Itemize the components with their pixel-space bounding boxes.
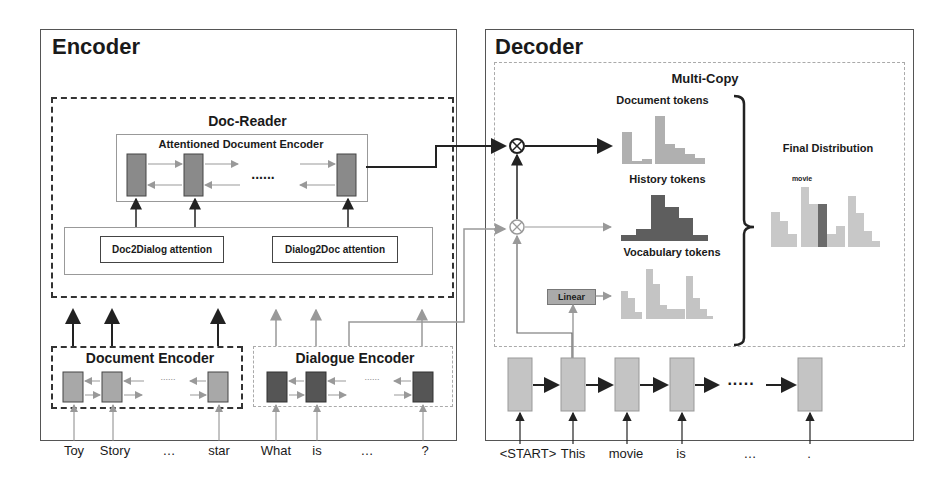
- diagram-graphics: [0, 0, 951, 497]
- histogram-final-distribution: [771, 187, 880, 247]
- histogram-history-tokens: [621, 195, 708, 241]
- multiply-node-history: [510, 220, 524, 234]
- histogram-document-tokens: [622, 116, 705, 164]
- multiply-node-document: [510, 139, 524, 153]
- doc-reader-cells: [127, 154, 356, 196]
- histogram-vocabulary-tokens: [621, 269, 713, 319]
